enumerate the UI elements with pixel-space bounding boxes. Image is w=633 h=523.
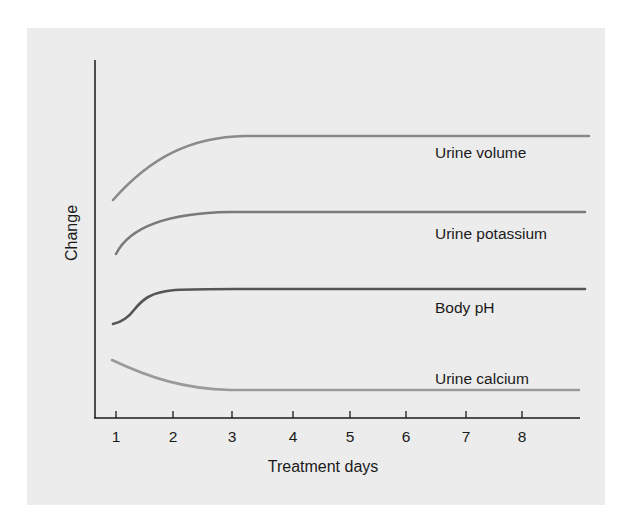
x-tick-label-2: 2: [169, 428, 178, 445]
x-tick-label-6: 6: [402, 428, 411, 445]
x-tick-label-4: 4: [289, 428, 298, 445]
label-urine-potassium: Urine potassium: [435, 225, 547, 242]
x-tick-label-3: 3: [228, 428, 237, 445]
label-urine-calcium: Urine calcium: [435, 370, 529, 387]
x-axis-title: Treatment days: [268, 458, 379, 475]
y-axis-title: Change: [63, 205, 80, 261]
x-tick-label-8: 8: [518, 428, 527, 445]
body-ph-curve: [113, 289, 585, 324]
label-urine-volume: Urine volume: [435, 144, 526, 161]
x-tick-label-5: 5: [346, 428, 355, 445]
label-body-ph: Body pH: [435, 299, 494, 316]
x-tick-label-7: 7: [462, 428, 471, 445]
x-tick-label-1: 1: [112, 428, 121, 445]
x-ticks: [116, 411, 522, 418]
line-chart: 1 2 3 4 5 6 7 8 Treatment days Change Ur…: [0, 0, 633, 523]
